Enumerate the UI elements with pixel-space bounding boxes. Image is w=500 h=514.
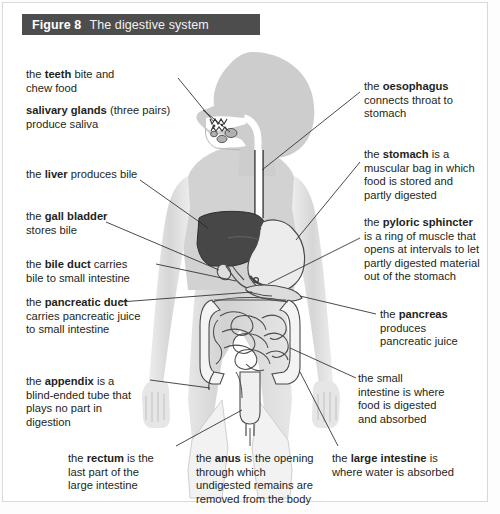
label-rectum: the rectum is the last part of the large… [68,452,198,493]
label-liver: the liver produces bile [26,168,186,182]
label-salivary-glands: salivary glands (three pairs) produce sa… [26,104,201,131]
label-pancreas: the pancreas produces pancreatic juice [380,308,498,349]
figure-page: Figure 8 The digestive system [0,0,500,514]
figure-title: The digestive system [89,18,208,32]
label-anus: the anus is the opening through which un… [196,452,334,506]
label-oesophagus: the oesophagus connects throat to stomac… [364,80,494,121]
figure-header-bar: Figure 8 The digestive system [22,14,260,35]
label-stomach: the stomach is a muscular bag in which f… [364,148,494,202]
label-gall-bladder: the gall bladder stores bile [26,210,176,237]
label-teeth: the teeth bite and chew food [26,68,176,95]
label-appendix: the appendix is a blind-ended tube that … [26,375,171,429]
label-bile-duct: the bile duct carries bile to small inte… [26,258,186,285]
label-small-intestine: the small intestine is where food is dig… [358,372,482,426]
label-large-intestine: the large intestine is where water is ab… [332,452,484,479]
label-pancreatic-duct: the pancreatic duct carries pancreatic j… [26,296,186,337]
label-pyloric-sphincter: the pyloric sphincter is a ring of muscl… [364,216,496,284]
figure-number: Figure 8 [32,18,81,32]
